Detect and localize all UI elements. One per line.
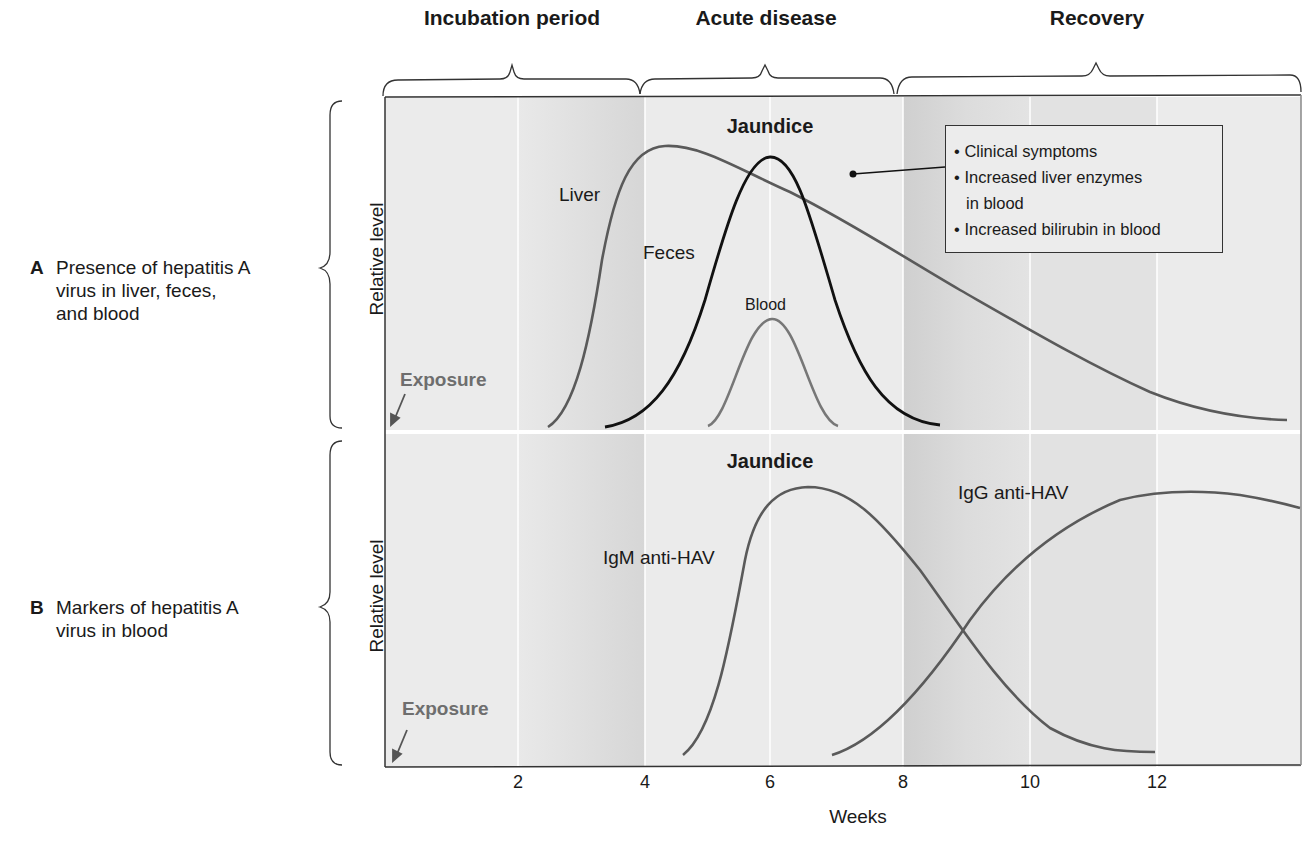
igg-label: IgG anti-HAV	[958, 482, 1069, 504]
panel-b-line2: virus in blood	[30, 619, 239, 642]
panel-a-description: APresence of hepatitis A virus in liver,…	[30, 256, 250, 325]
callout-item-clinical-symptoms: • Clinical symptoms	[954, 138, 1214, 164]
panel-a-letter: A	[30, 256, 56, 279]
x-tick-8: 8	[898, 772, 908, 793]
panel-divider	[385, 430, 1301, 434]
phase-label-acute: Acute disease	[695, 6, 836, 30]
panel-a-ylabel: Relative level	[366, 194, 388, 324]
panel-b-letter: B	[30, 596, 56, 619]
x-axis-label: Weeks	[829, 806, 887, 828]
panel-b-exposure-label: Exposure	[402, 698, 489, 720]
phase-braces	[383, 63, 1301, 96]
panel-a-line2: virus in liver, feces,	[30, 279, 250, 302]
phase-label-incubation: Incubation period	[424, 6, 600, 30]
liver-label: Liver	[559, 184, 600, 206]
x-tick-2: 2	[513, 772, 523, 793]
panel-b-line1: Markers of hepatitis A	[56, 597, 239, 618]
blood-label: Blood	[745, 296, 786, 314]
panel-a-line1: Presence of hepatitis A	[56, 257, 250, 278]
panel-b-ylabel: Relative level	[366, 531, 388, 661]
clinical-callout-box: • Clinical symptoms • Increased liver en…	[945, 125, 1223, 253]
panel-a-line3: and blood	[30, 302, 250, 325]
side-braces	[320, 101, 342, 765]
panel-b-background	[385, 434, 1301, 767]
feces-label: Feces	[643, 242, 695, 264]
panel-a-exposure-label: Exposure	[400, 369, 487, 391]
x-tick-4: 4	[640, 772, 650, 793]
igm-label: IgM anti-HAV	[603, 547, 715, 569]
callout-item-liver-enzymes: • Increased liver enzymes	[954, 164, 1214, 190]
x-tick-10: 10	[1020, 772, 1040, 793]
x-tick-12: 12	[1147, 772, 1167, 793]
phase-label-recovery: Recovery	[1050, 6, 1145, 30]
panel-b-jaundice-label: Jaundice	[727, 450, 814, 473]
panel-b-description: BMarkers of hepatitis A virus in blood	[30, 596, 239, 642]
callout-item-liver-enzymes-cont: in blood	[954, 190, 1214, 216]
callout-item-bilirubin: • Increased bilirubin in blood	[954, 216, 1214, 242]
x-tick-6: 6	[765, 772, 775, 793]
panel-a-jaundice-label: Jaundice	[727, 115, 814, 138]
